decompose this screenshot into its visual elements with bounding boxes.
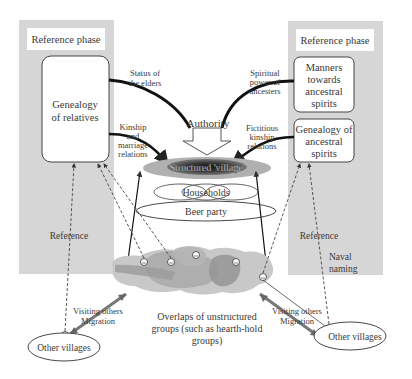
left-phase-label: Reference phase xyxy=(31,34,100,45)
manners-line3: ancestral xyxy=(305,86,342,97)
svg-text:Naval: Naval xyxy=(329,252,352,262)
svg-text:Overlaps of unstructured: Overlaps of unstructured xyxy=(157,311,256,322)
label-kinship-marriage: Kinship and marriage relations xyxy=(118,122,148,159)
other-villages-left-label: Other villages xyxy=(37,343,91,353)
genealogy-relatives-line1: Genealogy xyxy=(52,99,98,110)
genealogy-spirits-line1: Genealogy of xyxy=(296,124,353,135)
households-label: Households xyxy=(182,187,229,198)
face-icon xyxy=(141,259,148,266)
svg-text:groups (such as hearth-hold: groups (such as hearth-hold xyxy=(152,323,263,335)
visiting-migration-left-label: Visiting others Migration xyxy=(73,306,123,326)
reference-left-label: Reference xyxy=(50,231,89,241)
other-villages-right-label: Other villages xyxy=(328,332,382,342)
face-icon xyxy=(193,252,200,259)
structured-village-label: Structured 'village' xyxy=(170,162,245,173)
authority-arrow-icon xyxy=(183,128,231,155)
svg-text:Visiting others: Visiting others xyxy=(272,306,322,316)
overlaps-label: Overlaps of unstructured groups (such as… xyxy=(152,311,263,347)
authority-label: Authority xyxy=(187,117,230,129)
genealogy-relatives-line2: of relatives xyxy=(52,112,99,123)
manners-line2: towards xyxy=(307,74,340,85)
label-fictitious-kinship: Fictitious kinship relations xyxy=(246,123,278,151)
svg-text:naming: naming xyxy=(329,264,358,274)
face-icon xyxy=(168,259,175,266)
svg-text:Visiting others: Visiting others xyxy=(73,306,123,316)
label-status-elders: Status of the elders xyxy=(129,68,162,88)
svg-text:ancesters: ancesters xyxy=(249,86,280,96)
right-phase-label: Reference phase xyxy=(300,35,369,46)
svg-text:groups): groups) xyxy=(192,335,223,347)
svg-text:Migration: Migration xyxy=(81,316,116,326)
genealogy-spirits-line3: spirits xyxy=(311,148,337,159)
face-icon xyxy=(260,274,267,281)
label-spiritual-power: Spiritual power of ancesters xyxy=(249,68,280,96)
manners-line4: spirits xyxy=(311,98,337,109)
svg-text:Migration: Migration xyxy=(280,316,315,326)
manners-line1: Manners xyxy=(306,62,343,73)
reference-right-label: Reference xyxy=(300,231,339,241)
svg-text:relations: relations xyxy=(118,149,147,159)
households: Households xyxy=(154,184,258,200)
genealogy-spirits-line2: ancestral xyxy=(305,136,342,147)
beer-party-label: Beer party xyxy=(185,206,227,217)
other-villages-right: Other villages xyxy=(314,322,386,350)
diagram-canvas: Reference phase Genealogy of relatives R… xyxy=(0,0,412,379)
face-icon xyxy=(233,259,240,266)
svg-text:relations: relations xyxy=(247,141,276,151)
svg-text:the elders: the elders xyxy=(129,78,162,88)
other-villages-left: Other villages xyxy=(28,333,100,361)
beer-party: Beer party xyxy=(136,201,276,221)
visiting-migration-right-label: Visiting others Migration xyxy=(272,306,322,326)
svg-text:Status of: Status of xyxy=(130,68,160,78)
structured-village: Structured 'village' xyxy=(143,157,271,179)
